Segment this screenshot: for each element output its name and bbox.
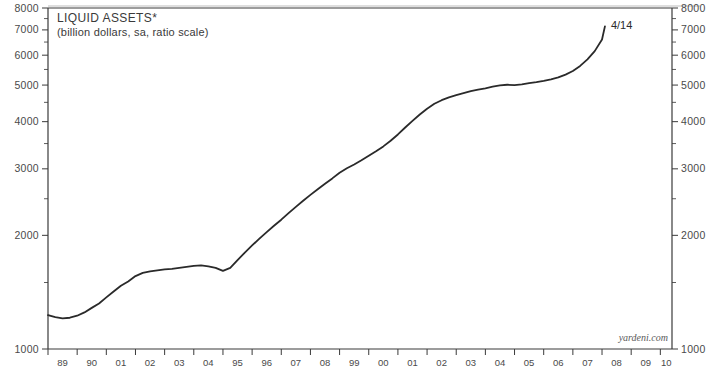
- chart-subtitle: (billion dollars, sa, ratio scale): [57, 26, 209, 38]
- x-tick-label: 02: [436, 357, 447, 368]
- y-tick-label-right: 6000: [681, 49, 706, 61]
- y-tick-label-left: 6000: [14, 49, 39, 61]
- y-tick-label-right: 3000: [681, 162, 706, 174]
- y-tick-label-right: 2000: [681, 229, 706, 241]
- x-tick-label: 10: [661, 357, 672, 368]
- x-tick-label: 89: [57, 357, 68, 368]
- y-axis-right: 80007000600050004000300020001000: [672, 2, 706, 355]
- endpoint-annotation: 4/14: [611, 19, 632, 31]
- liquid-assets-line-chart: 80007000600050004000300020001000 8000700…: [0, 0, 726, 371]
- series-line-liquid-assets: [48, 26, 605, 318]
- x-tick-label: 99: [349, 357, 360, 368]
- x-tick-label: 02: [145, 357, 156, 368]
- y-tick-label-left: 2000: [14, 229, 39, 241]
- x-tick-label: 08: [611, 357, 622, 368]
- x-tick-label: 01: [407, 357, 418, 368]
- y-axis-left: 80007000600050004000300020001000: [14, 2, 48, 355]
- y-tick-label-right: 7000: [681, 23, 706, 35]
- y-tick-label-right: 8000: [681, 2, 706, 14]
- y-tick-label-right: 5000: [681, 79, 706, 91]
- watermark: yardeni.com: [618, 332, 668, 343]
- y-tick-label-left: 1000: [14, 343, 39, 355]
- x-tick-label: 07: [582, 357, 593, 368]
- y-tick-label-right: 4000: [681, 115, 706, 127]
- x-tick-label: 96: [261, 357, 272, 368]
- y-tick-label-left: 8000: [14, 2, 39, 14]
- x-tick-label: 00: [378, 357, 389, 368]
- y-tick-label-left: 5000: [14, 79, 39, 91]
- x-tick-label: 09: [640, 357, 651, 368]
- x-tick-label: 03: [466, 357, 477, 368]
- y-tick-label-right: 1000: [681, 343, 706, 355]
- x-tick-label: 05: [524, 357, 535, 368]
- x-tick-label: 04: [203, 357, 214, 368]
- chart-title: LIQUID ASSETS*: [57, 11, 157, 25]
- x-tick-label: 04: [495, 357, 506, 368]
- x-axis: 8990010203049596070899000102030405060708…: [48, 349, 671, 368]
- x-tick-label: 90: [86, 357, 97, 368]
- x-tick-label: 06: [553, 357, 564, 368]
- x-tick-label: 03: [174, 357, 185, 368]
- chart-container: 80007000600050004000300020001000 8000700…: [0, 0, 726, 371]
- x-tick-label: 95: [232, 357, 243, 368]
- y-tick-label-left: 3000: [14, 162, 39, 174]
- plot-frame: [48, 8, 672, 349]
- x-tick-label: 08: [320, 357, 331, 368]
- x-tick-label: 01: [116, 357, 127, 368]
- y-tick-label-left: 4000: [14, 115, 39, 127]
- x-tick-label: 07: [291, 357, 302, 368]
- y-tick-label-left: 7000: [14, 23, 39, 35]
